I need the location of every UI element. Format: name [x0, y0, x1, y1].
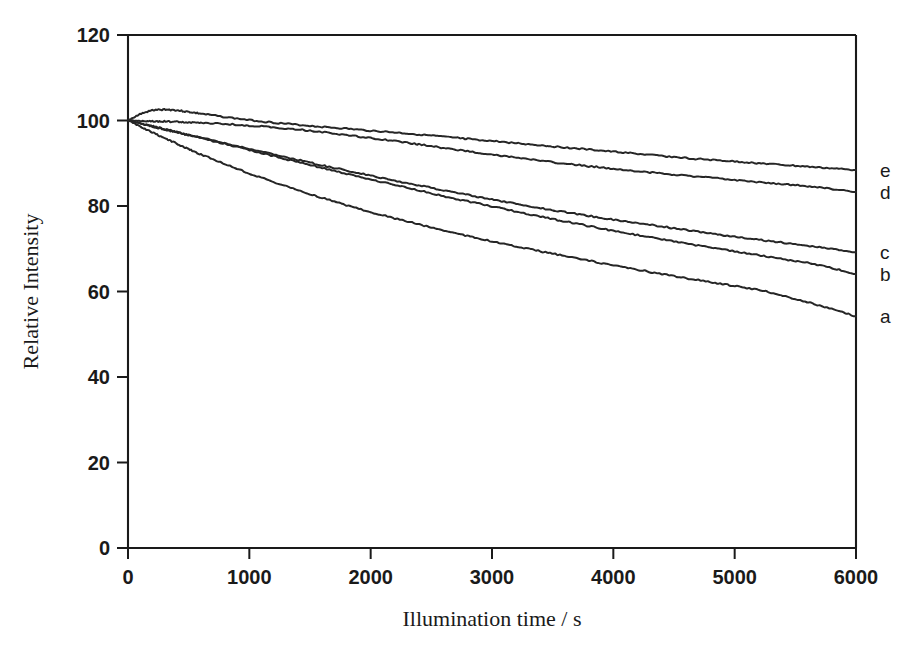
- x-tick-label: 5000: [712, 566, 757, 588]
- curve-a: [128, 120, 856, 316]
- x-tick-label: 1000: [227, 566, 272, 588]
- y-tick-label: 0: [99, 537, 110, 559]
- axis-spines: [128, 35, 856, 548]
- series-end-labels: edcba: [880, 160, 891, 327]
- y-axis-title: Relative Intensity: [18, 214, 43, 370]
- y-tick-label: 60: [88, 281, 110, 303]
- series-label-e: e: [880, 160, 891, 181]
- series-label-a: a: [880, 306, 891, 327]
- x-axis-title: Illumination time / s: [402, 606, 581, 631]
- curve-e: [128, 109, 856, 170]
- y-tick-label: 40: [88, 366, 110, 388]
- series-label-c: c: [880, 242, 890, 263]
- x-tick-label: 0: [122, 566, 133, 588]
- axes: [128, 35, 856, 548]
- x-tick-label: 4000: [591, 566, 636, 588]
- data-curves: [128, 109, 856, 316]
- series-label-b: b: [880, 264, 891, 285]
- curve-d: [128, 120, 856, 192]
- x-tick-label: 6000: [834, 566, 879, 588]
- x-axis-tick-labels: 0100020003000400050006000: [122, 566, 878, 588]
- x-tick-label: 3000: [470, 566, 515, 588]
- y-axis-tick-labels: 020406080100120: [77, 24, 110, 559]
- y-tick-label: 100: [77, 110, 110, 132]
- y-tick-label: 120: [77, 24, 110, 46]
- figure-container: 0100020003000400050006000 02040608010012…: [0, 0, 914, 662]
- series-label-d: d: [880, 182, 891, 203]
- tick-marks: [117, 35, 856, 559]
- y-tick-label: 80: [88, 195, 110, 217]
- y-tick-label: 20: [88, 452, 110, 474]
- line-chart: 0100020003000400050006000 02040608010012…: [0, 0, 914, 662]
- x-tick-label: 2000: [348, 566, 393, 588]
- curve-b: [128, 120, 856, 274]
